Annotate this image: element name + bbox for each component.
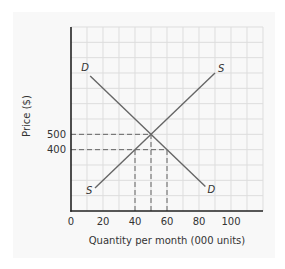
- demand-label-end: D: [207, 184, 215, 195]
- x-tick-label: 80: [193, 216, 206, 227]
- y-tick-label: 400: [47, 144, 66, 155]
- supply-label-start: S: [86, 185, 93, 196]
- x-tick-label: 0: [68, 216, 74, 227]
- y-axis-title: Price ($): [21, 95, 32, 137]
- demand-label-start: D: [81, 62, 89, 73]
- supply-demand-chart: SSDD 020406080100 400500 Quantity per mo…: [0, 0, 285, 269]
- x-tick-label: 40: [129, 216, 142, 227]
- x-tick-label: 60: [161, 216, 174, 227]
- supply-curve: [95, 73, 215, 188]
- x-axis-title: Quantity per month (000 units): [89, 235, 246, 246]
- x-tick-label: 20: [97, 216, 110, 227]
- x-tick-labels: 020406080100: [68, 216, 241, 227]
- supply-label-end: S: [218, 63, 225, 74]
- x-tick-label: 100: [221, 216, 240, 227]
- y-tick-labels: 400500: [47, 129, 66, 155]
- demand-curve: [90, 76, 205, 186]
- y-tick-label: 500: [47, 129, 66, 140]
